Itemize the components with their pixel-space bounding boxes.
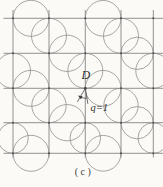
figure-panel: D q=1 (c): [0, 0, 163, 187]
angle-arrow-icon: [78, 96, 83, 100]
point-d-label: D: [81, 68, 91, 82]
angle-marker: [77, 88, 88, 104]
figure-caption: (c): [75, 166, 94, 178]
q-value-label: q=1: [91, 102, 109, 113]
vertical-edge-circles: [0, 18, 163, 153]
horizontal-edge-circles: [13, 0, 153, 171]
lattice-circles-diagram: D q=1 (c): [0, 0, 163, 187]
